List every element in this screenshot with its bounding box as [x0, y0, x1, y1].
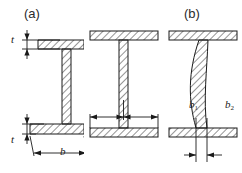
dimension-t-c-arrows: [189, 152, 214, 157]
bottom-flange-c: [169, 128, 237, 137]
top-flange-b: [90, 31, 158, 40]
bottom-flange-b: [90, 128, 158, 137]
panel-c-drawing: [164, 0, 242, 173]
panel-a-label: (a): [24, 7, 40, 20]
panel-a: (a) t t b: [0, 0, 84, 173]
dimension-label-t-top-a: t: [11, 34, 14, 45]
panel-a-drawing: [0, 0, 84, 173]
dimension-label-t-bottom-a: t: [11, 134, 14, 145]
beam-cross-section-figure: (a) t t b: [0, 0, 242, 173]
web-a: [62, 49, 71, 124]
dimension-label-b-a: b: [60, 146, 66, 157]
top-flange-c: [169, 31, 237, 40]
panel-b-drawing: [84, 0, 164, 173]
bottom-flange-a: [30, 124, 84, 134]
web-c-buckled: [190, 40, 208, 128]
top-flange-a: [38, 40, 84, 49]
panel-b: (b) b1 b2: [84, 0, 164, 173]
panel-c: (c) t: [164, 0, 242, 173]
